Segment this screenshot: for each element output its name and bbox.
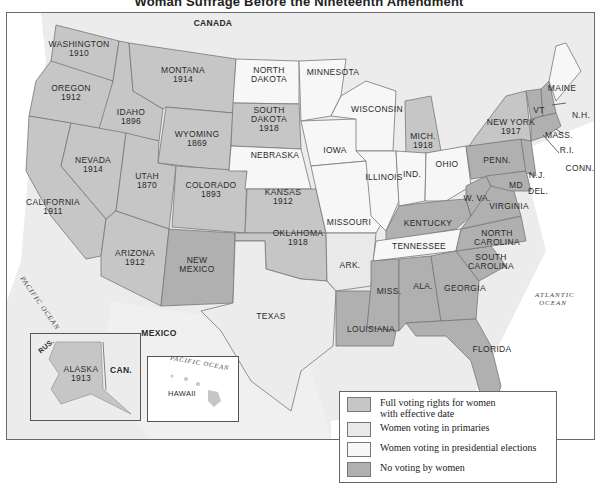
state-louisiana: LOUISIANA [347, 325, 395, 334]
state-rhode-island: R.I. [560, 146, 574, 155]
state-california: CALIFORNIA1911 [26, 198, 80, 216]
label-atlantic-2: OCEAN [539, 299, 567, 307]
state-kansas: KANSAS1912 [265, 188, 301, 206]
state-arizona: ARIZONA1912 [115, 249, 155, 267]
state-washington: WASHINGTON1910 [48, 40, 109, 58]
state-new-hampshire: N.H. [572, 111, 590, 120]
legend: Full voting rights for womenwith effecti… [339, 391, 557, 483]
state-south-dakota: SOUTHDAKOTA1918 [251, 106, 287, 133]
state-idaho: IDAHO1896 [117, 108, 145, 126]
state-illinois: ILLINOIS [365, 173, 402, 182]
state-oregon: OREGON1912 [51, 84, 91, 102]
state-new-mexico: NEWMEXICO [179, 256, 214, 274]
hawaii-inset: PACIFIC OCEAN HAWAII [147, 356, 239, 422]
state-tennessee: TENNESSEE [392, 242, 446, 251]
state-massachusetts: MASS. [545, 131, 573, 140]
state-connecticut: CONN. [566, 164, 595, 173]
state-utah: UTAH1870 [135, 172, 159, 190]
legend-swatch-primaries [347, 422, 371, 437]
state-south-carolina: SOUTHCAROLINA [468, 253, 514, 271]
state-nevada: NEVADA1914 [75, 156, 111, 174]
state-wyoming: WYOMING1869 [175, 130, 220, 148]
legend-item-primaries: Women voting in primaries [340, 422, 489, 437]
state-west-virginia: W. VA. [463, 194, 490, 203]
state-alaska: ALASKA1913 [64, 365, 99, 383]
state-nebraska: NEBRASKA [251, 151, 300, 160]
state-hawaii: HAWAII [168, 389, 196, 398]
state-georgia: GEORGIA [444, 284, 486, 293]
legend-item-presidential: Women voting in presidential elections [340, 442, 536, 457]
state-iowa: IOWA [323, 146, 347, 155]
state-mississippi: MISS. [377, 287, 402, 296]
state-missouri: MISSOURI [327, 218, 371, 227]
state-north-dakota: NORTHDAKOTA [251, 66, 287, 84]
state-new-york: NEW YORK1917 [487, 118, 536, 136]
legend-item-no-voting: No voting by women [340, 462, 465, 477]
state-florida: FLORIDA [473, 345, 512, 354]
map-frame: CANADA MEXICO PACIFIC OCEAN ATLANTIC OCE… [6, 12, 595, 440]
label-canada-inset: CAN. [110, 366, 132, 375]
legend-item-full-voting: Full voting rights for womenwith effecti… [340, 397, 496, 419]
state-montana: MONTANA1914 [161, 66, 205, 84]
state-delaware: DEL. [528, 187, 548, 196]
state-michigan: MICH.1918 [410, 132, 436, 150]
state-minnesota: MINNESOTA [307, 68, 360, 77]
state-texas: TEXAS [256, 312, 285, 321]
state-indiana: IND. [403, 170, 421, 179]
state-colorado: COLORADO1893 [185, 181, 236, 199]
state-wisconsin: WISCONSIN [351, 105, 403, 114]
legend-swatch-presidential [347, 442, 371, 457]
label-mexico: MEXICO [141, 329, 176, 338]
state-vermont: VT [533, 106, 544, 115]
state-oklahoma: OKLAHOMA1918 [273, 229, 324, 247]
state-pennsylvania: PENN. [483, 156, 510, 165]
state-maine: MAINE [548, 84, 576, 93]
label-atlantic-1: ATLANTIC [535, 291, 575, 299]
state-new-jersey: N.J. [529, 171, 545, 180]
label-canada: CANADA [194, 19, 233, 28]
legend-swatch-none [347, 462, 371, 477]
state-arkansas: ARK. [339, 261, 360, 270]
state-north-carolina: NORTHCAROLINA [474, 229, 520, 247]
state-ohio: OHIO [436, 160, 459, 169]
state-maryland: MD [509, 181, 523, 190]
state-kentucky: KENTUCKY [404, 219, 453, 228]
legend-swatch-full [347, 397, 371, 412]
map-title: Woman Suffrage Before the Nineteenth Ame… [0, 0, 598, 9]
alaska-inset: RUS. ALASKA1913 CAN. [30, 333, 141, 421]
state-virginia: VIRGINIA [489, 202, 529, 211]
state-alabama: ALA. [413, 282, 433, 291]
